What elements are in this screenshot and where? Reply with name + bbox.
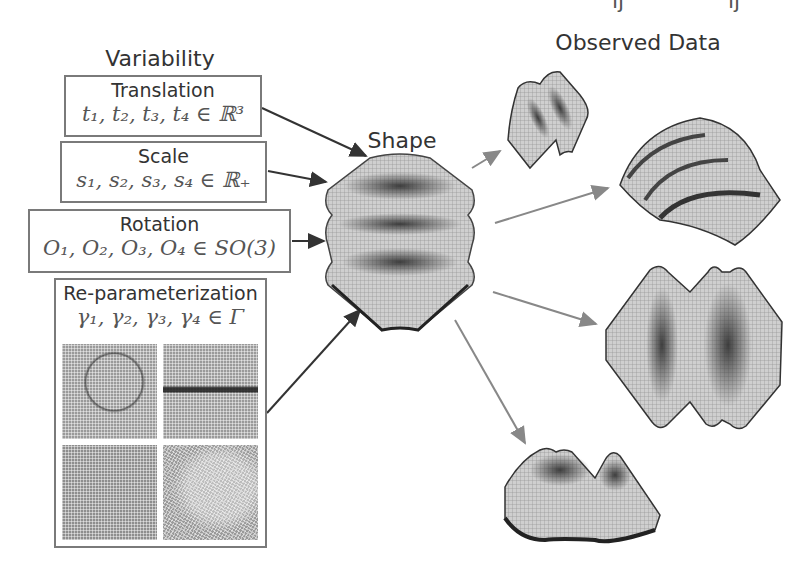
reparameterization-math: γ₁, γ₂, γ₃, γ₄ ∈ Γ — [56, 304, 265, 330]
rotation-math: O₁, O₂, O₃, O₄ ∈ SO(3) — [30, 235, 289, 261]
translation-box: Translation t₁, t₂, t₃, t₄ ∈ ℝ³ — [64, 75, 262, 137]
mesh-warp-tile-3 — [62, 445, 157, 540]
reparameterization-mesh-grid — [62, 344, 258, 540]
arrow-shape-to-obs3 — [493, 292, 596, 324]
arrow-shape-to-obs1 — [472, 151, 500, 168]
arrow-shape-to-obs2 — [495, 188, 608, 223]
translation-label: Translation — [66, 79, 260, 101]
observed-shape-4 — [505, 448, 660, 541]
translation-math: t₁, t₂, t₃, t₄ ∈ ℝ³ — [66, 101, 260, 127]
observed-shape-2 — [620, 118, 780, 245]
template-shape — [326, 154, 475, 330]
arrow-scale-to-shape — [268, 171, 326, 182]
shape-heading: Shape — [362, 128, 442, 153]
mesh-warp-tile-1 — [62, 344, 157, 439]
arrow-translation-to-shape — [262, 108, 366, 156]
observed-shape-3 — [606, 266, 782, 428]
rotation-box: Rotation O₁, O₂, O₃, O₄ ∈ SO(3) — [28, 209, 291, 273]
variability-heading: Variability — [100, 46, 220, 71]
scale-math: s₁, s₂, s₃, s₄ ∈ ℝ₊ — [62, 167, 265, 193]
observed-data-heading: Observed Data — [548, 30, 728, 55]
reparameterization-label: Re-parameterization — [56, 282, 265, 304]
rotation-label: Rotation — [30, 213, 289, 235]
scale-label: Scale — [62, 145, 265, 167]
mesh-warp-tile-2 — [163, 344, 258, 439]
observed-shape-1 — [508, 72, 588, 168]
cropped-text-fragment: ıʃ — [728, 0, 742, 13]
cropped-text-fragment: ıʃ — [612, 0, 626, 13]
arrow-reparam-to-shape — [267, 310, 360, 413]
output-arrows — [455, 151, 608, 443]
scale-box: Scale s₁, s₂, s₃, s₄ ∈ ℝ₊ — [60, 141, 267, 203]
arrow-shape-to-obs4 — [455, 320, 525, 443]
mesh-warp-tile-4 — [163, 445, 258, 540]
